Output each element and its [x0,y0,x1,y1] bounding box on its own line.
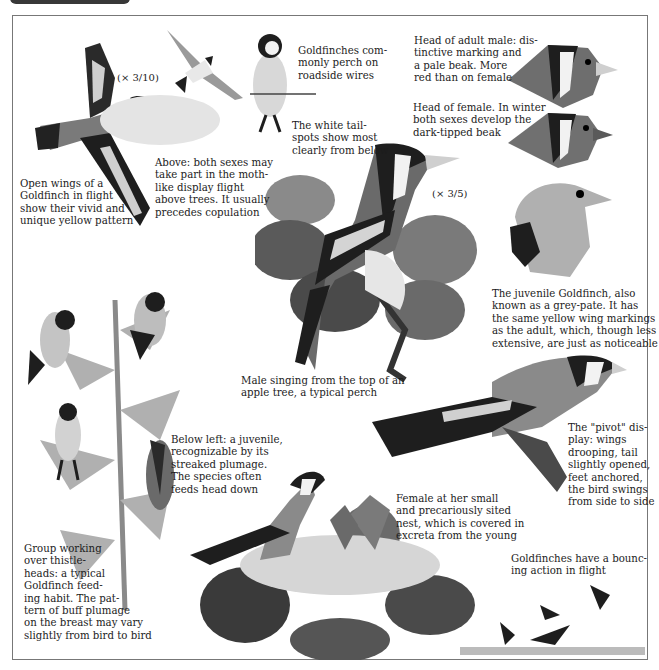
caption-open-wings: Open wings of a Goldfinch in flight show… [20,178,133,228]
main-scale-label: (× 3/5) [432,188,467,199]
thistle-bird-1 [28,310,75,385]
male-singing-goldfinch-illustration [255,140,485,385]
caption-group-thistle: Group working over thistle- heads: a typ… [24,543,152,642]
flight-scale-label: (× 3/10) [117,72,159,83]
caption-female-head: Head of female. In winter both sexes dev… [413,102,546,139]
caption-juvenile: The juvenile Goldfinch, also known as a … [492,288,658,350]
bouncing-flight-illustration [460,570,645,655]
caption-pivot-display: The "pivot" dis- play: wings drooping, t… [568,422,654,509]
page-title-fragment [10,0,130,4]
caption-tail-spots: The white tail- spots show most clearly … [292,120,389,157]
caption-bouncing-flight: Goldfinches have a bounc- ing action in … [511,553,647,578]
caption-roadside-wires: Goldfinches com- monly perch on roadside… [298,45,387,82]
juvenile-head-illustration [500,172,615,282]
caption-adult-male-head: Head of adult male: dis- tinctive markin… [414,35,538,85]
thistle-juvenile-bird [146,440,174,510]
thistle-bird-2 [130,292,166,360]
caption-male-singing: Male singing from the top of an apple tr… [241,375,405,400]
caption-female-nest: Female at her small and precariously sit… [396,493,524,543]
caption-below-left-juvenile: Below left: a juvenile, recognizable by … [171,434,283,496]
display-flight-goldfinch-illustration [165,28,245,103]
caption-display-flight: Above: both sexes may take part in the m… [155,157,273,219]
